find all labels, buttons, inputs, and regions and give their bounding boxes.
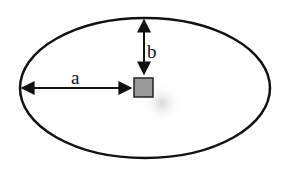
label-a: a [71,67,80,88]
center-square [134,78,153,97]
ellipse-diagram: a b [0,0,283,169]
label-b: b [147,41,157,62]
